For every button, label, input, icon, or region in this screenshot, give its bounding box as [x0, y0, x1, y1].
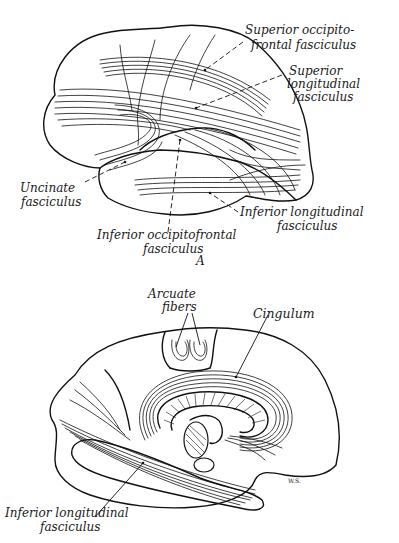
uncinate-fibers	[95, 105, 162, 170]
inferior-longitudinal-fibers-a	[135, 175, 300, 195]
panel-letter-a: A	[195, 254, 205, 268]
leader-arcuate-right	[192, 313, 200, 345]
label-arcuate-fibers: Arcuate fibers	[147, 287, 200, 314]
artist-signature: W.S.	[288, 477, 301, 484]
label-superior-occipitofrontal: Superior occipito- frontal fasciculus	[245, 23, 358, 52]
precentral-sulcus	[120, 45, 132, 110]
temporal-lobe-medial	[72, 440, 264, 510]
label-inferior-occipitofrontal: Inferior occipitofrontal fasciculus	[96, 228, 240, 256]
thalamus	[184, 422, 208, 458]
leader-inferior-occipitofrontal	[168, 140, 180, 232]
parieto-occipital-line	[105, 370, 130, 430]
label-superior-longitudinal: Superior longitudinal fasciculus	[287, 64, 364, 104]
label-cingulum: Cingulum	[253, 306, 315, 321]
label-inferior-longitudinal-b: Inferior longitudinal fasciculus	[4, 506, 132, 534]
paracentral-lobule-right	[210, 330, 217, 368]
parietal-sulcus	[190, 35, 215, 90]
panel-a-lateral-brain: Superior occipito- frontal fasciculus Su…	[20, 23, 367, 268]
corpus-callosum-inner	[171, 406, 254, 433]
paracentral-lobule-left	[162, 332, 170, 368]
mammillary-body	[194, 458, 214, 472]
inferior-longitudinal-fibers-b	[60, 382, 255, 505]
superior-fiber-bundle	[55, 57, 300, 154]
central-sulcus	[137, 40, 155, 145]
paracentral-lobule-bottom	[170, 368, 210, 371]
brain-fiber-tracts-figure: Superior occipito- frontal fasciculus Su…	[0, 0, 399, 543]
panel-b-medial-brain: Arcuate fibers Cingulum Inferior longitu…	[4, 287, 339, 534]
leader-cingulum	[236, 315, 268, 377]
leader-superior-occipitofrontal	[205, 42, 243, 70]
label-uncinate: Uncinate fasciculus	[20, 181, 82, 209]
callosal-radiations	[164, 393, 265, 424]
cingulum-arcs	[139, 371, 292, 451]
label-inferior-longitudinal-a: Inferior longitudinal fasciculus	[239, 205, 367, 233]
